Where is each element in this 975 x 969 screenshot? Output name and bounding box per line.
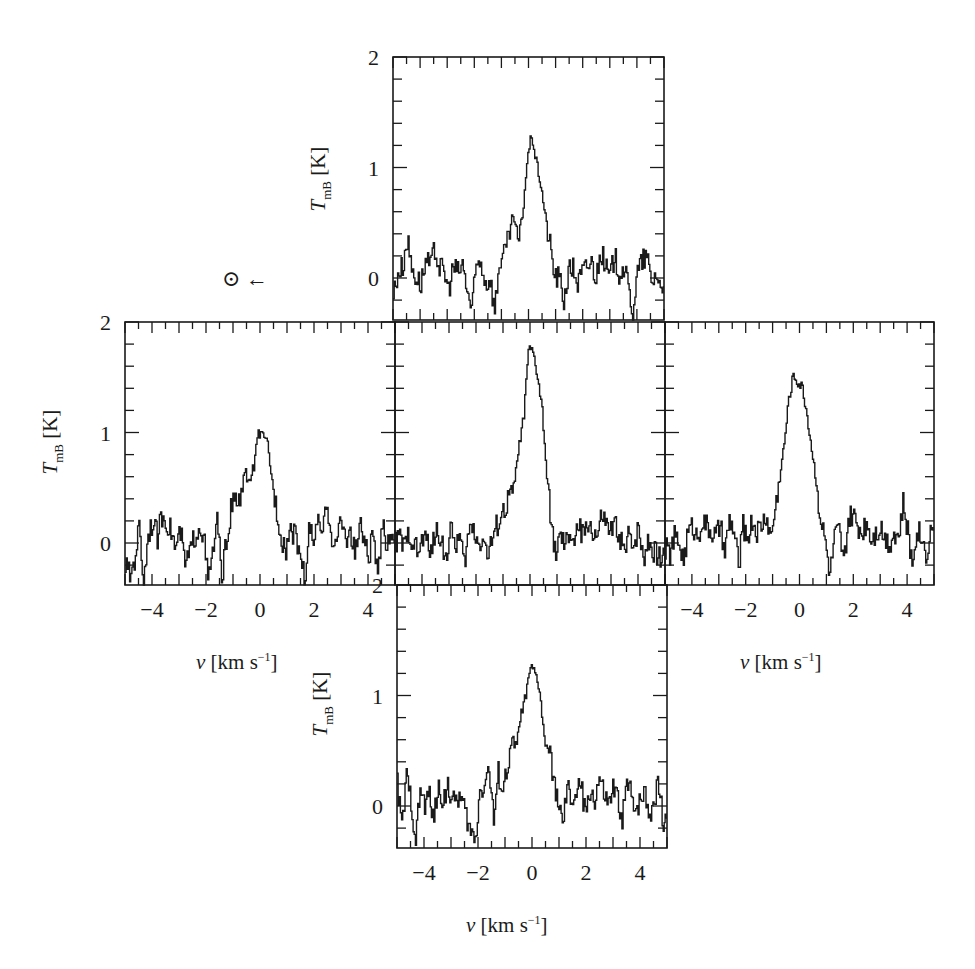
x-tick-label: −2 <box>466 860 489 885</box>
x-axis-label-close: ] <box>815 650 822 674</box>
x-axis-label-symbol: v <box>196 650 205 674</box>
x-axis-label-symbol: v <box>740 650 749 674</box>
x-tick-label: 0 <box>794 597 805 622</box>
panel-frame-right <box>665 322 934 585</box>
y-tick-label: 1 <box>100 421 111 446</box>
y-axis-label-subscript: mB <box>319 181 334 200</box>
y-axis-label-subscript: mB <box>321 706 336 725</box>
y-axis-label-unit: [K] <box>38 410 62 444</box>
y-axis-label-symbol: T <box>308 725 332 737</box>
x-tick-label: 4 <box>363 597 374 622</box>
x-tick-label: 0 <box>527 860 538 885</box>
x-axis-label-exponent: −1 <box>802 650 815 664</box>
sun-direction-marker: ⊙ ← <box>222 266 268 292</box>
x-tick-label: 2 <box>581 860 592 885</box>
y-tick-label: 0 <box>100 531 111 556</box>
x-tick-label: 2 <box>309 597 320 622</box>
x-tick-label: 0 <box>255 597 266 622</box>
x-axis-label-unit: [km s <box>475 913 528 937</box>
x-axis-label-close: ] <box>541 913 548 937</box>
x-tick-label: 4 <box>635 860 646 885</box>
x-axis-label-bottom: v [km s−1] <box>466 913 548 938</box>
x-axis-label-exponent: −1 <box>258 650 271 664</box>
y-axis-label-symbol: T <box>306 200 330 212</box>
y-axis-label-subscript: mB <box>51 444 66 463</box>
x-tick-label: 4 <box>902 597 913 622</box>
spectrum-line-right <box>665 374 934 576</box>
y-tick-label: 2 <box>100 310 111 335</box>
y-axis-label-unit: [K] <box>306 147 330 181</box>
x-axis-label-left: v [km s−1] <box>196 650 278 675</box>
x-tick-label: −2 <box>734 597 757 622</box>
y-axis-label-symbol: T <box>38 463 62 475</box>
y-tick-label: 1 <box>372 684 383 709</box>
x-axis-label-symbol: v <box>466 913 475 937</box>
panel-frame-top <box>393 57 664 320</box>
spectrum-line-left <box>125 430 395 585</box>
y-tick-label: 0 <box>368 266 379 291</box>
x-axis-label-unit: [km s <box>749 650 802 674</box>
y-axis-label-left: TmB [K] <box>38 410 66 475</box>
spectrum-line-top <box>393 136 664 320</box>
x-tick-label: −4 <box>412 860 435 885</box>
x-tick-label: −4 <box>140 597 163 622</box>
y-axis-label-bottom: TmB [K] <box>308 672 336 737</box>
x-axis-label-right: v [km s−1] <box>740 650 822 675</box>
spectra-figure: 012012−4−2024−4−2024012−4−2024 ⊙ ← TmB [… <box>0 0 975 969</box>
spectrum-line-bottom <box>397 665 667 846</box>
x-tick-label: −4 <box>680 597 703 622</box>
x-axis-label-exponent: −1 <box>528 913 541 927</box>
y-tick-label: 1 <box>368 156 379 181</box>
x-axis-label-close: ] <box>271 650 278 674</box>
spectra-plot-area: 012012−4−2024−4−2024012−4−2024 <box>0 0 975 969</box>
x-tick-label: 2 <box>848 597 859 622</box>
y-axis-label-unit: [K] <box>308 672 332 706</box>
y-tick-label: 0 <box>372 794 383 819</box>
y-axis-label-top: TmB [K] <box>306 147 334 212</box>
y-tick-label: 2 <box>368 45 379 70</box>
y-tick-label: 2 <box>372 573 383 598</box>
spectrum-line-center <box>395 346 665 567</box>
x-axis-label-unit: [km s <box>205 650 258 674</box>
x-tick-label: −2 <box>194 597 217 622</box>
